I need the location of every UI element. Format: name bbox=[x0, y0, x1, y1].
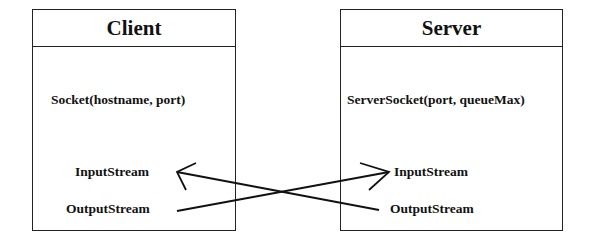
connection-arrows bbox=[0, 0, 591, 247]
arrowhead-icon bbox=[177, 163, 196, 190]
arrow-server-output-to-client-input bbox=[177, 172, 379, 210]
